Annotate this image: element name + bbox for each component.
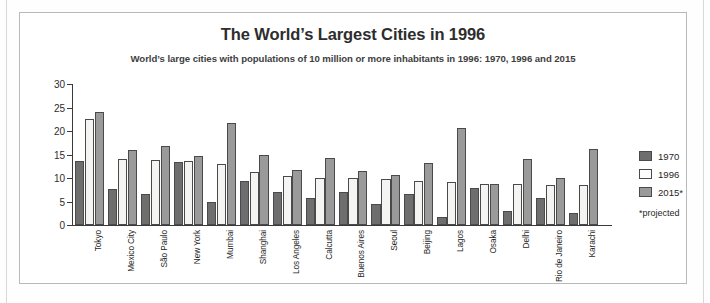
bar-2015-los-angeles: [292, 170, 301, 225]
y-tick-label: 10: [54, 173, 65, 184]
x-axis-label: Calcutta: [324, 230, 334, 260]
bar-1970-são-paulo: [141, 194, 150, 225]
chart-legend: 197019962015* *projected: [639, 148, 710, 218]
bar-group: Mumbai: [205, 84, 238, 225]
bar-group: Lagos: [435, 84, 468, 225]
bar-2015-seoul: [391, 175, 400, 225]
bar-1996-seoul: [381, 179, 390, 225]
bar-1996-karachi: [579, 185, 588, 225]
bar-1970-calcutta: [306, 198, 315, 225]
bar-group: Los Angeles: [271, 84, 304, 225]
bar-1996-new-york: [184, 161, 193, 225]
x-axis-label: São Paulo: [159, 230, 169, 267]
bar-1996-tokyo: [85, 119, 94, 225]
bar-2015-mexico-city: [128, 150, 137, 225]
x-axis-label: Mumbai: [225, 230, 235, 259]
bar-group: Karachi: [567, 84, 600, 225]
y-tick-mark: [67, 178, 72, 179]
x-axis-label: Karachi: [587, 230, 597, 257]
y-tick-label: 30: [54, 79, 65, 90]
bar-1970-shanghai: [240, 181, 249, 225]
y-tick-label: 20: [54, 126, 65, 137]
bar-group: Tokyo: [73, 84, 106, 225]
legend-label: 1970: [658, 151, 679, 162]
x-axis-label: Shanghai: [258, 230, 268, 264]
y-tick-mark: [67, 155, 72, 156]
bar-1996-beijing: [414, 181, 423, 225]
x-axis-label: Rio de Janeiro: [554, 230, 564, 282]
legend-item: 1970: [639, 148, 710, 164]
bar-group: Beijing: [402, 84, 435, 225]
bar-2015-mumbai: [227, 123, 236, 225]
bar-1996-los-angeles: [283, 176, 292, 225]
bar-1970-buenos-aires: [339, 192, 348, 225]
x-axis-label: Delhi: [521, 230, 531, 248]
legend-item: 2015*: [639, 184, 710, 200]
bar-2015-tokyo: [95, 112, 104, 225]
bar-1996-mexico-city: [118, 159, 127, 225]
bar-2015-são-paulo: [161, 146, 170, 225]
bar-1970-seoul: [371, 204, 380, 225]
x-axis-label: New York: [192, 230, 202, 264]
bar-1996-lagos: [447, 182, 456, 225]
y-tick-mark: [67, 225, 72, 226]
x-axis-label: Lagos: [455, 230, 465, 252]
x-axis-label: Beijing: [422, 230, 432, 254]
bar-group: Rio de Janeiro: [534, 84, 567, 225]
bar-2015-osaka: [490, 184, 499, 225]
bar-group: Osaka: [468, 84, 501, 225]
x-axis-label: Seoul: [389, 230, 399, 251]
chart-subtitle: World’s large cities with populations of…: [20, 53, 686, 64]
bar-2015-calcutta: [325, 158, 334, 225]
y-tick-mark: [67, 108, 72, 109]
bar-1970-rio-de-janeiro: [536, 198, 545, 225]
x-axis-label: Osaka: [488, 230, 498, 253]
legend-swatch-icon: [639, 169, 652, 179]
y-tick-mark: [67, 84, 72, 85]
y-tick-mark: [67, 131, 72, 132]
legend-swatch-icon: [639, 187, 652, 197]
legend-label: 2015*: [658, 187, 683, 198]
bar-2015-lagos: [457, 128, 466, 225]
bar-1970-mexico-city: [108, 189, 117, 225]
bar-1996-osaka: [480, 184, 489, 225]
bar-group: Buenos Aires: [337, 84, 370, 225]
bar-1970-lagos: [437, 217, 446, 225]
x-axis-label: Buenos Aires: [356, 230, 366, 278]
legend-item: 1996: [639, 166, 710, 182]
x-axis-label: Mexico City: [126, 230, 136, 272]
bar-1970-beijing: [404, 194, 413, 225]
bar-1996-mumbai: [217, 164, 226, 225]
bar-2015-shanghai: [259, 155, 268, 225]
y-tick-label: 25: [54, 102, 65, 113]
legend-footnote: *projected: [639, 208, 710, 218]
bar-1970-osaka: [470, 188, 479, 225]
bar-1996-calcutta: [315, 178, 324, 225]
chart-figure: The World’s Largest Cities in 1996 World…: [0, 0, 710, 303]
bar-1996-delhi: [513, 184, 522, 225]
bar-group: Calcutta: [304, 84, 337, 225]
y-tick-label: 15: [54, 149, 65, 160]
x-axis-label: Los Angeles: [291, 230, 301, 274]
bar-1970-karachi: [569, 213, 578, 225]
x-axis-label: Tokyo: [93, 230, 103, 251]
bar-2015-new-york: [194, 156, 203, 225]
bar-group: Shanghai: [238, 84, 271, 225]
bar-1996-rio-de-janeiro: [546, 185, 555, 225]
y-tick-mark: [67, 202, 72, 203]
bar-1970-new-york: [174, 162, 183, 225]
bar-groups: TokyoMexico CitySão PauloNew YorkMumbaiS…: [73, 84, 600, 225]
chart-title: The World’s Largest Cities in 1996: [20, 25, 686, 44]
y-tick-label: 0: [59, 220, 65, 231]
bar-group: São Paulo: [139, 84, 172, 225]
legend-swatch-icon: [639, 151, 652, 161]
bar-1970-los-angeles: [273, 192, 282, 225]
bar-1970-mumbai: [207, 202, 216, 225]
bar-1970-delhi: [503, 211, 512, 225]
bar-group: Mexico City: [106, 84, 139, 225]
y-tick-label: 5: [59, 196, 65, 207]
bar-2015-delhi: [523, 159, 532, 225]
bar-1970-tokyo: [75, 161, 84, 225]
legend-label: 1996: [658, 169, 679, 180]
chart-frame: The World’s Largest Cities in 1996 World…: [19, 12, 687, 284]
